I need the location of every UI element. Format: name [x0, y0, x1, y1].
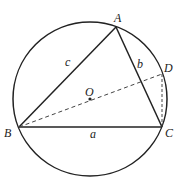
label-side-c: c — [65, 55, 71, 69]
side-c — [19, 27, 116, 127]
label-d-point: D — [163, 61, 173, 75]
label-side-a: a — [90, 127, 96, 141]
label-a-vertex: A — [113, 11, 122, 25]
label-b-vertex: B — [4, 126, 12, 140]
label-o-center: O — [85, 85, 94, 99]
side-b — [116, 27, 162, 127]
geometry-diagram: A B C D O c b a — [0, 0, 180, 195]
label-c-vertex: C — [165, 126, 174, 140]
label-side-b: b — [137, 57, 143, 71]
